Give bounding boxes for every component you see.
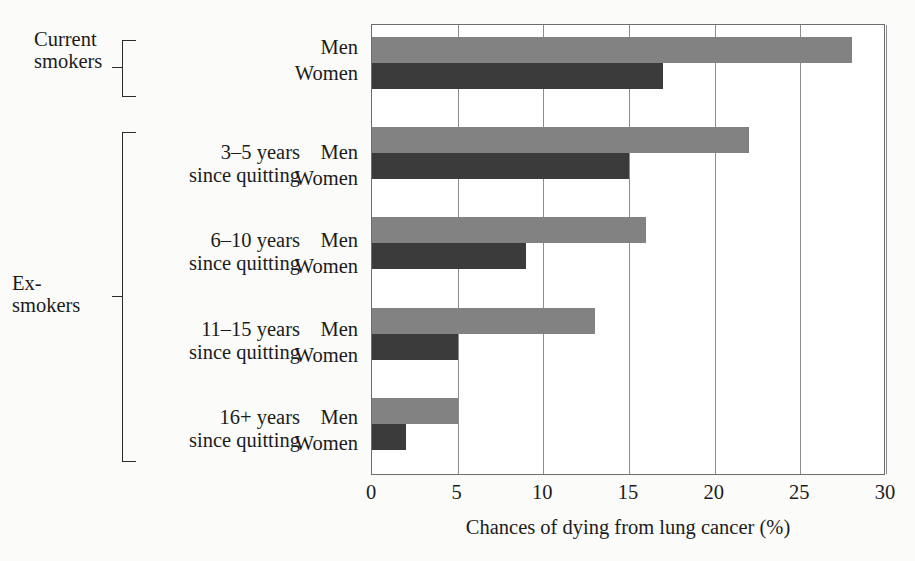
gridline-20 bbox=[715, 25, 716, 474]
series-label-men: Men bbox=[320, 406, 358, 429]
category-label-11-15-years: 11–15 years since quitting bbox=[189, 318, 300, 364]
series-label-men: Men bbox=[320, 229, 358, 252]
bar-women bbox=[372, 243, 526, 269]
series-label-women: Women bbox=[295, 167, 358, 190]
bar-women bbox=[372, 424, 406, 450]
series-label-men: Men bbox=[320, 318, 358, 341]
x-tick-label-5: 5 bbox=[427, 481, 487, 504]
x-tick-label-20: 20 bbox=[684, 481, 744, 504]
gridline-25 bbox=[800, 25, 801, 474]
bar-men bbox=[372, 308, 595, 334]
bracket-label-ex-smokers: Ex- smokers bbox=[12, 272, 80, 316]
bracket-label-current-smokers: Current smokers bbox=[34, 28, 102, 72]
lung-cancer-bar-chart: Current smokers Ex- smokers 3–5 years si… bbox=[0, 0, 915, 561]
x-tick-label-25: 25 bbox=[769, 481, 829, 504]
series-label-men: Men bbox=[320, 141, 358, 164]
x-tick-label-0: 0 bbox=[341, 481, 401, 504]
category-label-3-5-years: 3–5 years since quitting bbox=[189, 141, 300, 187]
bar-men bbox=[372, 37, 852, 63]
gridline-30 bbox=[886, 25, 887, 474]
x-tick-label-10: 10 bbox=[512, 481, 572, 504]
series-label-men: Men bbox=[320, 36, 358, 59]
gridline-15 bbox=[629, 25, 630, 474]
bar-men bbox=[372, 127, 749, 153]
bracket-nub bbox=[112, 296, 123, 297]
bracket-nub bbox=[112, 67, 123, 68]
bracket-ex-smokers bbox=[122, 132, 136, 462]
plot-area bbox=[371, 24, 885, 475]
bar-women bbox=[372, 63, 663, 89]
x-axis-title: Chances of dying from lung cancer (%) bbox=[371, 516, 885, 539]
series-label-women: Women bbox=[295, 255, 358, 278]
series-label-women: Women bbox=[295, 344, 358, 367]
bar-women bbox=[372, 334, 458, 360]
category-label-16-plus-years: 16+ years since quitting bbox=[189, 406, 300, 452]
bracket-current-smokers bbox=[122, 40, 136, 97]
series-label-women: Women bbox=[295, 62, 358, 85]
series-label-women: Women bbox=[295, 432, 358, 455]
gridline-10 bbox=[543, 25, 544, 474]
bar-men bbox=[372, 217, 646, 243]
x-tick-label-15: 15 bbox=[598, 481, 658, 504]
x-tick-label-30: 30 bbox=[855, 481, 915, 504]
bar-men bbox=[372, 398, 458, 424]
category-label-6-10-years: 6–10 years since quitting bbox=[189, 229, 300, 275]
bar-women bbox=[372, 153, 629, 179]
